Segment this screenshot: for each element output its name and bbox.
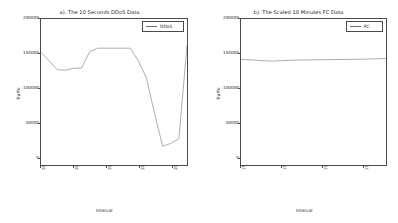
chart-panel-ddos: a). The 10 Seconds DDoS Data Traffic Int… (0, 0, 199, 223)
y-tick-label-a-150000: 150000 (5, 51, 39, 56)
x-axis-label-b: Interval (296, 208, 312, 213)
plot-area-a (40, 18, 188, 166)
y-tick-label-b-0: 0 (205, 156, 239, 161)
legend-a: DDoS (142, 21, 184, 32)
y-tick-label-a-100000: 100000 (5, 86, 39, 91)
y-tick-label-a-50000: 50000 (5, 121, 39, 126)
x-axis-label-a: Interval (96, 208, 112, 213)
data-line-svg-a (41, 19, 187, 165)
chart-panel-fc: b). The Scaled 10 Minutes FC Data Traffi… (199, 0, 398, 223)
y-tick-label-b-50000: 50000 (205, 121, 239, 126)
data-series-ddos (41, 45, 187, 146)
legend-line-icon (146, 26, 157, 27)
legend-line-icon (350, 26, 361, 27)
plot-area-b (240, 18, 387, 166)
legend-b: FC (346, 21, 383, 32)
y-tick-label-b-150000: 150000 (205, 51, 239, 56)
legend-label-fc: FC (364, 24, 370, 29)
y-tick-label-b-200000: 200000 (205, 16, 239, 21)
data-line-svg-b (241, 19, 386, 165)
y-tick-label-a-0: 0 (5, 156, 39, 161)
figure-container: a). The 10 Seconds DDoS Data Traffic Int… (0, 0, 398, 223)
y-tick-label-a-200000: 200000 (5, 16, 39, 21)
legend-label-ddos: DDoS (160, 24, 172, 29)
y-tick-label-b-100000: 100000 (205, 86, 239, 91)
data-series-fc (241, 58, 386, 61)
